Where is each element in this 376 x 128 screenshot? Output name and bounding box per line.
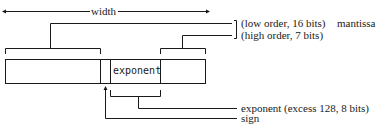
bracket-exponent	[111, 90, 161, 97]
high-order-label: (high order, 7 bits)	[241, 29, 323, 41]
width-label: width	[91, 5, 116, 17]
arrowhead-left-icon	[2, 10, 6, 14]
mantissa-label: mantissa	[337, 17, 376, 29]
bracket-low-order	[6, 49, 101, 55]
exponent-field-label: exponent	[113, 65, 161, 77]
mantissa-brace	[234, 21, 237, 39]
bracket-high-order	[161, 49, 206, 55]
sign-annotation: sign	[241, 112, 259, 124]
low-order-label: (low order, 16 bits)	[241, 17, 326, 29]
sign-pointer	[106, 89, 238, 119]
exponent-annotation: exponent (excess 128, 8 bits)	[241, 102, 369, 114]
arrowhead-right-icon	[206, 10, 210, 14]
sign-arrowhead-icon	[104, 86, 108, 90]
word-box	[6, 60, 206, 84]
